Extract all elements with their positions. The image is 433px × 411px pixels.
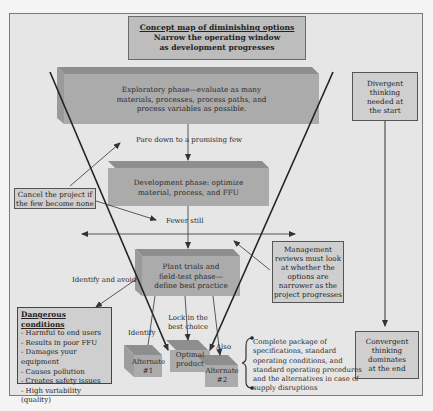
danger-item: - Causes pollution bbox=[21, 368, 108, 378]
danger-item: - Results in poor FFU bbox=[21, 339, 108, 349]
plant-trials-line-2: field-test phase— bbox=[142, 272, 240, 282]
package-line-1: Complete package of bbox=[253, 338, 373, 347]
development-line-1: Development phase: optimize bbox=[108, 178, 269, 188]
cancel-line-1: Cancel the project if bbox=[18, 190, 92, 199]
danger-item: - High variability (quality) bbox=[21, 387, 108, 406]
identify-and-avoid-label: Identify and avoid bbox=[72, 276, 136, 285]
optimal-line-2: product bbox=[170, 360, 210, 369]
danger-item: - Damages your equipment bbox=[21, 348, 108, 367]
management-line-3: at whether the bbox=[281, 263, 335, 272]
management-line-4: options are bbox=[287, 272, 328, 281]
cancel-project-box: Cancel the project if the few become non… bbox=[14, 188, 96, 209]
management-line-6: project progresses bbox=[274, 290, 342, 299]
divergent-thinking-box: Divergent thinking needed at the start bbox=[352, 72, 418, 121]
diagram-title-box: Concept map of diminishing options Narro… bbox=[128, 16, 306, 60]
divergent-line-1: Divergent bbox=[367, 79, 403, 88]
package-line-2: specifications, standard bbox=[253, 347, 373, 356]
dangerous-conditions-box: Dangerous conditions - Harmful to end us… bbox=[17, 307, 112, 384]
cancel-line-2: the few become none bbox=[16, 199, 94, 208]
package-line-6: supply disruptions bbox=[253, 384, 373, 393]
plant-trials-text: Plant trials and field-test phase— defin… bbox=[142, 262, 240, 291]
alternate-1-line-2: #1 bbox=[132, 367, 164, 376]
lock-in-line-2: best choice bbox=[166, 323, 210, 332]
divergent-line-4: the start bbox=[369, 106, 400, 115]
management-line-1: Management bbox=[284, 245, 332, 254]
alternate-1-line-1: Alternate bbox=[132, 358, 164, 367]
management-line-5: narrower as the bbox=[279, 281, 337, 290]
exploratory-line-3: process variables as possible. bbox=[64, 104, 319, 114]
danger-item: - Creates safety issues bbox=[21, 377, 108, 387]
divergent-line-2: thinking bbox=[370, 88, 400, 97]
plant-trials-line-1: Plant trials and bbox=[142, 262, 240, 272]
development-phase-text: Development phase: optimize material, pr… bbox=[108, 178, 269, 197]
plant-trials-line-3: define best practice bbox=[142, 281, 240, 291]
convergent-line-2: thinking bbox=[372, 346, 402, 355]
convergent-line-4: at the end bbox=[369, 364, 406, 373]
alternate-2-line-1: Alternate bbox=[205, 367, 239, 376]
lock-in-label: Lock in the best choice bbox=[166, 314, 210, 332]
package-line-3: operating conditions, and bbox=[253, 357, 373, 366]
lock-in-line-1: Lock in the bbox=[166, 314, 210, 323]
package-line-5: and the alternatives in case of bbox=[253, 375, 373, 384]
management-line-2: reviews must look bbox=[275, 254, 341, 263]
divergent-line-3: needed at bbox=[367, 97, 403, 106]
dangerous-conditions-heading: Dangerous conditions bbox=[21, 310, 108, 329]
identify-label: Identify bbox=[128, 329, 156, 338]
exploratory-phase-text: Exploratory phase—evaluate as many mater… bbox=[64, 85, 319, 114]
alternate-2-line-2: #2 bbox=[205, 376, 239, 385]
optimal-line-1: Optimal bbox=[170, 351, 210, 360]
title-line-2: Narrow the operating window bbox=[154, 33, 280, 43]
development-line-2: material, process, and FFU bbox=[108, 188, 269, 198]
management-reviews-box: Management reviews must look at whether … bbox=[272, 241, 344, 303]
fewer-still-label: Fewer still bbox=[166, 217, 203, 226]
convergent-line-3: dominates bbox=[368, 355, 406, 364]
alternate-2-text: Alternate #2 bbox=[205, 367, 239, 385]
exploratory-line-2: materials, processes, process paths, and bbox=[64, 95, 319, 105]
title-line-1: Concept map of diminishing options bbox=[140, 23, 295, 33]
alternate-1-text: Alternate #1 bbox=[132, 358, 164, 376]
pare-down-label: Pare down to a promising few bbox=[136, 136, 242, 145]
title-line-3: as development progresses bbox=[159, 43, 274, 53]
optimal-product-text: Optimal product bbox=[170, 351, 210, 369]
package-line-4: standard operating procedures bbox=[253, 366, 373, 375]
complete-package-text: Complete package of specifications, stan… bbox=[253, 338, 373, 394]
also-label: Also bbox=[216, 343, 231, 352]
danger-item: - Harmful to end users bbox=[21, 329, 108, 339]
exploratory-line-1: Exploratory phase—evaluate as many bbox=[64, 85, 319, 95]
